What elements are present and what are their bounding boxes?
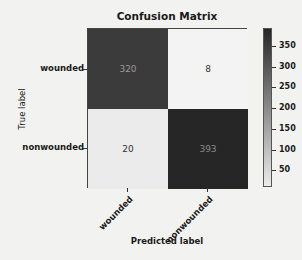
cell-nonwounded-wounded: 20 [88, 109, 168, 189]
cell-wounded-nonwounded: 8 [168, 29, 248, 109]
colorbar-tick [272, 170, 276, 171]
ytick-nonwounded: nonwounded [22, 142, 84, 152]
colorbar-tick [272, 46, 276, 47]
xtick-wounded: wounded [97, 194, 135, 232]
xtick-mark [127, 188, 128, 192]
colorbar-tick [272, 108, 276, 109]
colorbar-label-50: 50 [279, 165, 290, 174]
colorbar-label-200: 200 [279, 103, 296, 112]
y-axis-label: True label [17, 79, 27, 139]
confusion-matrix: 320 8 20 393 [87, 28, 247, 188]
colorbar-tick [272, 67, 276, 68]
colorbar-label-100: 100 [279, 145, 296, 154]
colorbar-label-250: 250 [279, 82, 296, 91]
colorbar [263, 28, 272, 187]
colorbar-tick [272, 150, 276, 151]
colorbar-label-150: 150 [279, 124, 296, 133]
colorbar-label-350: 350 [279, 41, 296, 50]
ytick-mark [83, 69, 87, 70]
colorbar-tick [272, 87, 276, 88]
ytick-mark [83, 148, 87, 149]
chart-title: Confusion Matrix [87, 10, 247, 22]
cell-nonwounded-nonwounded: 393 [168, 109, 248, 189]
ytick-wounded: wounded [40, 63, 84, 73]
cell-wounded-wounded: 320 [88, 29, 168, 109]
colorbar-tick [272, 129, 276, 130]
colorbar-label-300: 300 [279, 62, 296, 71]
x-axis-label: Predicted label [87, 236, 247, 246]
xtick-mark [207, 188, 208, 192]
